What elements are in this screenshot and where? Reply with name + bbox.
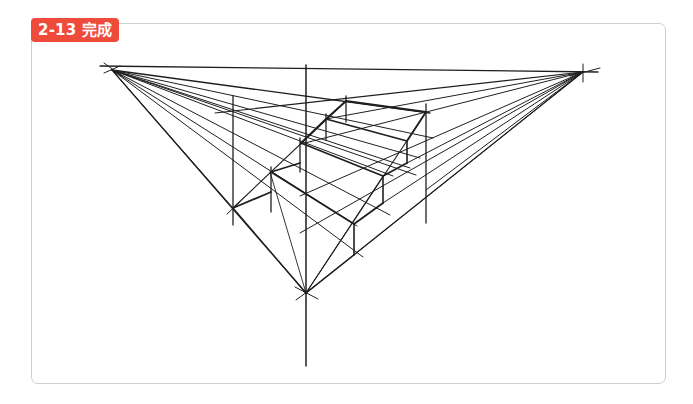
drawing-line: [300, 72, 583, 233]
drawing-line: [112, 70, 363, 257]
drawing-line: [407, 72, 583, 163]
drawing-line: [300, 72, 583, 196]
drawing-line: [306, 176, 383, 293]
drawing-line: [326, 72, 583, 119]
drawing-line: [112, 70, 433, 138]
drawing-line: [233, 208, 306, 293]
drawing-line: [112, 70, 410, 168]
three-point-perspective-drawing: [0, 0, 693, 404]
drawing-line: [301, 72, 583, 144]
drawing-line: [383, 72, 583, 203]
drawing-line: [215, 72, 583, 113]
drawing-line: [354, 72, 583, 255]
drawing-line: [112, 70, 420, 158]
drawing-line: [233, 192, 271, 208]
drawing-line: [100, 66, 598, 72]
drawing-line: [306, 255, 354, 293]
drawing-line: [112, 70, 393, 176]
drawing-line: [112, 70, 390, 215]
perspective-lines: [100, 63, 600, 366]
